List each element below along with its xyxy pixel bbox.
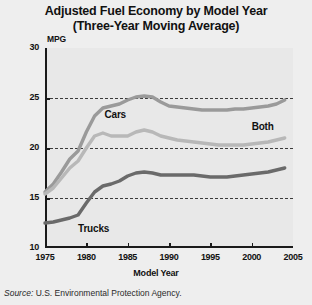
x-tick-label-1985: 1985 [108, 252, 148, 262]
series-label-trucks: Trucks [78, 223, 109, 234]
x-tick-label-1990: 1990 [149, 252, 189, 262]
series-label-cars: Cars [105, 109, 126, 120]
plot-area [45, 48, 293, 248]
y-tick-label-30: 30 [3, 42, 39, 52]
x-tick-label-2000: 2000 [232, 252, 272, 262]
chart-subtitle: (Three-Year Moving Average) [0, 19, 312, 34]
x-tick-label-1975: 1975 [25, 252, 65, 262]
y-tick-mark-25 [45, 98, 50, 100]
series-line-both [45, 130, 285, 194]
source-note: Source: U.S. Environmental Protection Ag… [4, 288, 182, 298]
y-axis-unit-label: MPG [47, 34, 66, 44]
data-lines [45, 48, 293, 248]
y-tick-label-20: 20 [3, 142, 39, 152]
chart-title: Adjusted Fuel Economy by Model Year (Thr… [0, 4, 312, 34]
y-tick-label-25: 25 [3, 92, 39, 102]
y-tick-label-15: 15 [3, 192, 39, 202]
series-label-both: Both [252, 121, 274, 132]
y-tick-mark-15 [45, 198, 50, 200]
chart-root: Adjusted Fuel Economy by Model Year (Thr… [0, 0, 312, 305]
y-tick-mark-20 [45, 148, 50, 150]
x-tick-label-2005: 2005 [273, 252, 312, 262]
series-line-trucks [45, 168, 285, 223]
x-tick-label-1980: 1980 [66, 252, 106, 262]
chart-title-line1: Adjusted Fuel Economy by Model Year [45, 4, 268, 18]
x-tick-label-1995: 1995 [190, 252, 230, 262]
y-tick-label-10: 10 [3, 242, 39, 252]
source-prefix: Source: [4, 288, 33, 298]
source-body: U.S. Environmental Protection Agency. [33, 288, 181, 298]
x-axis-title: Model Year [0, 268, 312, 278]
